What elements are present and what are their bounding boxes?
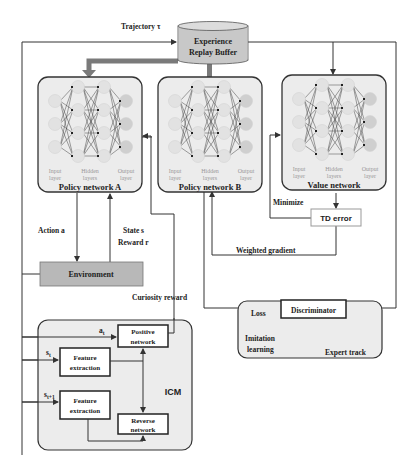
icm-label: ICM [165,387,182,397]
weighted-gradient-label: Weighted gradient [236,246,296,255]
neuron-node [120,141,133,154]
neuron-node [240,141,253,154]
trajectory-label: Trajectory τ [121,22,161,31]
reward-label: Reward r [118,238,149,247]
layer-label: Input [49,168,62,174]
neuron-node [192,104,205,117]
neuron-node [293,139,306,152]
layer-label: Input [169,168,182,174]
neuron-node [240,95,253,108]
rl-architecture-diagram: Experience Replay Buffer Trajectory τ In… [0,0,417,466]
td-error-box: TD error [311,209,361,226]
neuron-node [364,116,377,129]
expert-track-label: Expert track [325,348,367,357]
icm-panel: ICM at st st+1 Positive network Feature … [38,320,192,450]
neuron-node [72,150,85,163]
td-error-label: TD error [320,214,352,223]
feature-extraction-1-label-2: extraction [70,364,100,372]
layer-label: layer [240,175,252,181]
neuron-node [98,127,111,140]
buffer-label-line2: Replay Buffer [189,48,238,57]
neuron-node [169,118,182,131]
network-title: Policy network A [59,182,122,192]
neuron-node [364,139,377,152]
layer-label: layer [293,173,305,179]
neuron-node [169,141,182,154]
layer-label: Hidden [201,168,219,174]
neuron-node [192,150,205,163]
action-label: Action a [38,226,65,235]
layer-label: layer [169,175,181,181]
layer-label: layer [364,173,376,179]
neuron-node [342,79,355,92]
feature-extraction-2-label-2: extraction [70,407,100,415]
experience-replay-buffer: Experience Replay Buffer [178,22,248,65]
environment-label: Environment [68,270,114,279]
neuron-node [192,127,205,140]
neuron-node [293,93,306,106]
reverse-network-label-2: network [131,426,156,434]
network-title: Value network [308,180,361,190]
layer-label: Hidden [81,168,99,174]
neuron-node [98,81,111,94]
neuron-node [293,116,306,129]
layer-label: Output [118,168,135,174]
neuron-node [342,102,355,115]
neuron-node [316,102,329,115]
layer-label: Input [293,166,306,172]
imitation-label-line2: learning [247,345,274,354]
neuron-node [218,127,231,140]
neuron-node [218,81,231,94]
neuron-node [98,104,111,117]
neuron-node [49,95,62,108]
loss-label: Loss [251,309,266,318]
neuron-node [316,79,329,92]
neuron-node [364,93,377,106]
neuron-node [218,104,231,117]
imitation-learning-panel: Loss Discriminator Imitation learning Ex… [238,300,382,358]
layer-label: layer [49,175,61,181]
neuron-node [49,141,62,154]
neuron-node [342,148,355,161]
network-title: Policy network B [179,182,242,192]
layer-label: layer [120,175,132,181]
policy-network-b-panel: InputlayerHiddenlayersOutputlayerPolicy … [158,77,262,192]
layer-label: Output [238,168,255,174]
environment-box: Environment [40,262,143,286]
layer-label: layers [203,175,218,181]
minimize-label: Minimize [273,198,304,207]
reverse-network-label-1: Reverse [131,417,155,425]
value-network-panel: InputlayerHiddenlayersOutputlayerValue n… [282,75,386,190]
neuron-node [49,118,62,131]
neuron-node [72,81,85,94]
buffer-label-line1: Experience [194,37,233,46]
layer-label: Output [362,166,379,172]
neuron-node [342,125,355,138]
neuron-node [218,150,231,163]
neuron-node [240,118,253,131]
feature-extraction-1-label-1: Feature [73,354,96,362]
neuron-node [120,118,133,131]
imitation-label-line1: Imitation [245,334,276,343]
neuron-node [72,104,85,117]
neuron-node [120,95,133,108]
layer-label: Hidden [325,166,343,172]
layer-label: layers [83,175,98,181]
neuron-node [316,148,329,161]
feature-extraction-2-label-1: Feature [73,397,96,405]
positive-network-label-2: network [131,338,156,346]
state-label: State s [123,226,144,235]
neuron-node [72,127,85,140]
layer-label: layers [327,173,342,179]
positive-network-label-1: Positive [131,328,154,336]
discriminator-label: Discriminator [291,306,337,315]
neuron-node [192,81,205,94]
curiosity-reward-label: Curiosity reward [132,293,188,302]
policy-network-a-panel: InputlayerHiddenlayersOutputlayerPolicy … [38,77,142,192]
neuron-node [98,150,111,163]
neuron-node [316,125,329,138]
neuron-node [169,95,182,108]
